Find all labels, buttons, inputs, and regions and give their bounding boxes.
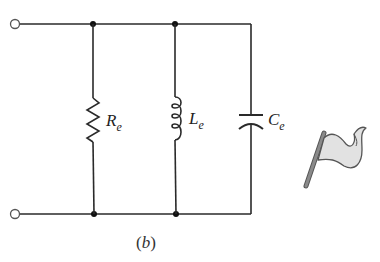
bottom-terminal [11,210,20,219]
inductor-branch: Le [172,24,204,214]
inductor-symbol [172,97,181,140]
inductor-label: Le [188,109,204,132]
bottom-rail [20,124,251,214]
top-rail [20,24,251,115]
resistor-symbol [87,98,99,142]
resistor-label: Re [105,111,122,134]
top-terminal [11,20,20,29]
parallel-rlc-circuit-diagram: Re Le Ce (b) [0,0,380,262]
capacitor-label: Ce [268,110,285,133]
flag-icon[interactable] [306,127,366,186]
figure-caption: (b) [136,233,156,252]
capacitor-branch: Ce [239,110,285,133]
resistor-branch: Re [87,24,122,214]
